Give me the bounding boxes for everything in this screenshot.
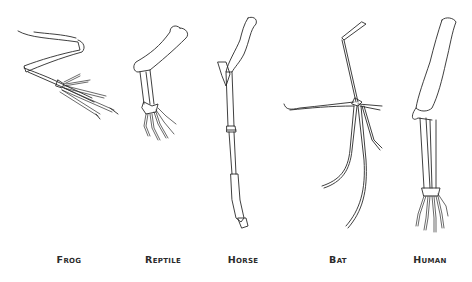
label-horse: Horse: [228, 254, 259, 265]
label-reptile: Reptile: [145, 254, 181, 265]
human-forelimb: [412, 18, 456, 232]
bat-forelimb: [284, 22, 382, 228]
reptile-forelimb: [134, 26, 188, 140]
limbs-illustration: [0, 0, 472, 282]
label-frog: Frog: [57, 254, 82, 265]
horse-forelimb: [218, 17, 256, 228]
label-human: Human: [413, 254, 446, 265]
label-bat: Bat: [329, 254, 347, 265]
frog-forelimb: [18, 31, 118, 119]
